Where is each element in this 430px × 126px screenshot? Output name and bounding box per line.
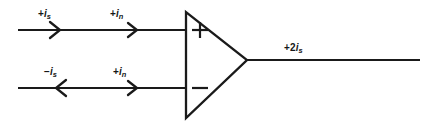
label-output-subscript: s bbox=[299, 46, 303, 55]
noninverting-input-plus-symbol bbox=[192, 22, 208, 38]
circuit-diagram: +is +in −is +in +2is bbox=[0, 0, 430, 126]
circuit-schematic-canvas bbox=[0, 0, 430, 126]
label-top-source-current: +is bbox=[38, 9, 51, 20]
label-bottom-source-subscript: s bbox=[53, 70, 57, 79]
label-top-source-subscript: s bbox=[47, 12, 51, 21]
opamp-triangle bbox=[186, 12, 247, 118]
label-bottom-source-current: −is bbox=[44, 67, 57, 78]
label-bottom-noise-current: +in bbox=[113, 67, 126, 78]
label-top-noise-current: +in bbox=[110, 9, 123, 20]
label-output-current: +2is bbox=[284, 43, 303, 54]
label-bottom-noise-subscript: n bbox=[122, 70, 127, 79]
label-top-noise-subscript: n bbox=[119, 12, 124, 21]
